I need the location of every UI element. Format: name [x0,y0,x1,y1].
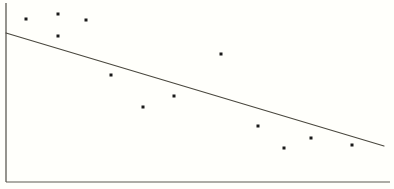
data-point [220,53,223,56]
scatter-plot-figure [0,0,394,189]
data-point [283,147,286,150]
data-point [173,95,176,98]
data-point [85,19,88,22]
data-point [57,13,60,16]
data-point [110,74,113,77]
data-point [57,35,60,38]
data-point [310,137,313,140]
data-point [257,125,260,128]
data-point [25,18,28,21]
data-point [351,144,354,147]
plot-canvas [0,0,394,189]
data-point [142,106,145,109]
plot-background [0,0,394,189]
